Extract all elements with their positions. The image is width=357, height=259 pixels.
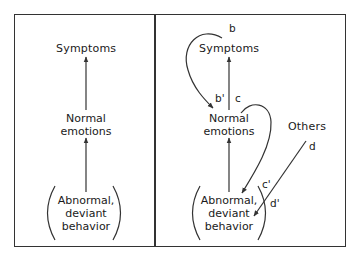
- edge-label-b-prime: b': [215, 93, 225, 104]
- right-behavior-node: Abnormal, deviant behavior: [194, 194, 264, 233]
- left-symptoms-node: Symptoms: [56, 43, 116, 55]
- right-behavior-line-3: behavior: [194, 220, 264, 233]
- right-symptoms-node: Symptoms: [199, 43, 259, 55]
- edge-label-d-prime: d': [270, 198, 280, 209]
- edge-label-b: b: [229, 23, 236, 34]
- left-emotions-line-1: Normal: [51, 112, 121, 125]
- edge-label-d: d: [309, 141, 316, 152]
- left-behavior-line-2: deviant: [51, 207, 121, 220]
- left-emotions-node: Normal emotions: [51, 112, 121, 138]
- others-node: Others: [284, 121, 330, 133]
- edge-label-c-prime: c': [262, 179, 271, 190]
- left-behavior-line-3: behavior: [51, 220, 121, 233]
- right-emotions-line-2: emotions: [194, 125, 264, 138]
- edge-label-c: c: [235, 93, 241, 104]
- left-behavior-line-1: Abnormal,: [51, 194, 121, 207]
- right-emotions-node: Normal emotions: [194, 112, 264, 138]
- left-emotions-line-2: emotions: [51, 125, 121, 138]
- right-behavior-line-1: Abnormal,: [194, 194, 264, 207]
- right-emotions-line-1: Normal: [194, 112, 264, 125]
- right-behavior-line-2: deviant: [194, 207, 264, 220]
- left-behavior-node: Abnormal, deviant behavior: [51, 194, 121, 233]
